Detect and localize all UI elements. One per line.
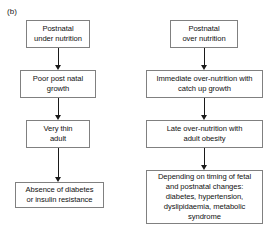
arrow-late-over-nutrition-to-outcomes bbox=[200, 148, 209, 170]
arrow-immediate-to-late-over-nutrition bbox=[200, 98, 209, 120]
node-late-over-nutrition: Late over-nutrition withadult obesity bbox=[146, 120, 263, 148]
node-immediate-over-nutrition-label: Immediate over-nutrition withcatch up gr… bbox=[149, 74, 260, 94]
node-metabolic-outcomes-label: Depending on timing of fetaland postnata… bbox=[149, 172, 260, 223]
arrow-shaft bbox=[204, 98, 205, 116]
node-very-thin-adult-label: Very thinadult bbox=[29, 124, 87, 144]
pathway-column-under-nutrition: Postnatalunder nutrition Poor post natal… bbox=[0, 0, 140, 237]
node-absence-of-diabetes: Absence of diabetesor insulin resistance bbox=[15, 182, 104, 208]
node-postnatal-under-nutrition-label: Postnatalunder nutrition bbox=[29, 24, 87, 44]
flowchart-figure: (b) Postnatalunder nutrition Poor post n… bbox=[0, 0, 279, 237]
arrow-very-thin-adult-to-absence-of-diabetes bbox=[54, 148, 63, 182]
arrow-shaft bbox=[58, 98, 59, 116]
node-immediate-over-nutrition: Immediate over-nutrition withcatch up gr… bbox=[146, 70, 263, 98]
node-postnatal-under-nutrition: Postnatalunder nutrition bbox=[26, 20, 90, 48]
arrow-poor-growth-to-very-thin-adult bbox=[54, 98, 63, 120]
node-postnatal-over-nutrition: Postnatalover nutrition bbox=[170, 20, 238, 48]
node-very-thin-adult: Very thinadult bbox=[26, 120, 90, 148]
node-postnatal-over-nutrition-label: Postnatalover nutrition bbox=[173, 24, 235, 44]
node-poor-post-natal-growth: Poor post natalgrowth bbox=[20, 70, 96, 98]
node-poor-post-natal-growth-label: Poor post natalgrowth bbox=[23, 74, 93, 94]
node-absence-of-diabetes-label: Absence of diabetesor insulin resistance bbox=[18, 185, 101, 205]
arrow-over-nutrition-to-immediate-over-nutrition bbox=[200, 48, 209, 70]
arrow-under-nutrition-to-poor-growth bbox=[54, 48, 63, 70]
pathway-column-over-nutrition: Postnatalover nutrition Immediate over-n… bbox=[139, 0, 279, 237]
arrow-shaft bbox=[204, 48, 205, 66]
node-metabolic-outcomes: Depending on timing of fetaland postnata… bbox=[146, 170, 263, 224]
node-late-over-nutrition-label: Late over-nutrition withadult obesity bbox=[149, 124, 260, 144]
arrow-shaft bbox=[58, 148, 59, 178]
arrow-shaft bbox=[204, 148, 205, 166]
arrow-shaft bbox=[58, 48, 59, 66]
